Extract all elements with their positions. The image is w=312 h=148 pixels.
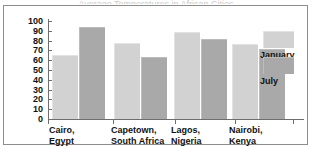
bar-january-2 <box>174 32 200 119</box>
x-axis-category-label: Capetown, South Africa <box>111 125 164 146</box>
bar-january-0 <box>52 55 78 119</box>
bar-january-3 <box>232 44 258 119</box>
chart-title-cropped: Average Temperatures in African Cities <box>0 0 312 4</box>
legend-swatch-january <box>263 31 294 48</box>
y-axis-tick-label: 70 <box>3 46 43 55</box>
y-axis-tick-label: 100 <box>3 17 43 26</box>
y-axis-tick <box>48 31 52 32</box>
x-axis-tick <box>235 120 236 124</box>
y-axis-tick-label: 60 <box>3 56 43 65</box>
chart-frame: 1009080706050403020100Cairo, EgyptCapeto… <box>3 5 308 145</box>
y-axis-tick-label: 40 <box>3 76 43 85</box>
x-axis-category-label: Nairobi, Kenya <box>229 125 263 146</box>
chart-screenshot: Average Temperatures in African Cities 1… <box>0 0 312 148</box>
bar-july-0 <box>79 27 105 119</box>
bar-july-2 <box>201 39 227 119</box>
legend-label-july: July <box>260 76 278 86</box>
y-axis-tick-label: 20 <box>3 95 43 104</box>
x-axis-line <box>48 119 304 120</box>
x-axis-tick <box>293 120 294 124</box>
y-axis-tick-label: 80 <box>3 37 43 46</box>
x-axis-tick <box>48 120 49 124</box>
y-axis-tick-label: 30 <box>3 86 43 95</box>
y-axis-tick <box>48 41 52 42</box>
legend-swatch-july <box>263 57 294 74</box>
x-axis-category-label: Lagos, Nigeria <box>171 125 202 146</box>
y-axis-tick <box>48 21 52 22</box>
y-axis-tick <box>48 50 52 51</box>
bar-july-1 <box>141 57 167 119</box>
y-axis-tick-label: 90 <box>3 27 43 36</box>
x-axis-category-label: Cairo, Egypt <box>49 125 75 146</box>
y-axis-tick-label: 10 <box>3 105 43 114</box>
x-axis-tick <box>113 120 114 124</box>
bar-january-1 <box>114 43 140 119</box>
y-axis-tick-label: 50 <box>3 66 43 75</box>
y-axis-tick-label: 0 <box>3 115 43 124</box>
x-axis-tick <box>175 120 176 124</box>
plot-area: 1009080706050403020100Cairo, EgyptCapeto… <box>4 6 309 146</box>
